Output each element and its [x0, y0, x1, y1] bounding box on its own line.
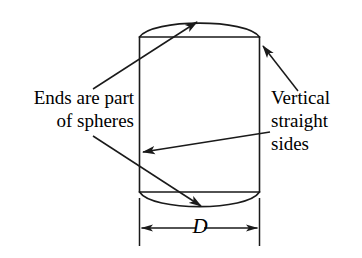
leader-vertical-to-top-right-corner	[263, 46, 298, 91]
label-vertical-straight-sides: Vertical straight sides	[271, 86, 362, 155]
leader-straight-to-left-side	[143, 132, 270, 152]
label-vertical-line-1: Vertical	[271, 86, 362, 109]
label-ends-are-part-of-spheres: Ends are part of spheres	[0, 86, 134, 132]
label-vertical-line-2: straight	[271, 109, 362, 132]
diameter-symbol-label: D	[186, 214, 214, 238]
capsule-outline	[140, 23, 260, 207]
leader-spheres-to-bottom-arc	[93, 136, 201, 206]
label-ends-line-2: of spheres	[0, 109, 134, 132]
figure-canvas: Ends are part of spheres Vertical straig…	[0, 0, 362, 258]
label-vertical-line-3: sides	[271, 132, 362, 155]
label-ends-line-1: Ends are part	[0, 86, 134, 109]
top-spherical-cap-arc	[140, 23, 260, 37]
